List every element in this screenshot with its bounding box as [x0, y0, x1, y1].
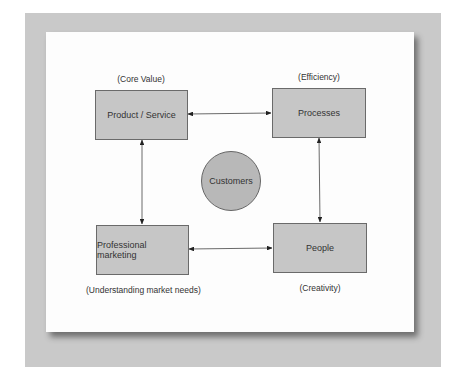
- node-label: People: [306, 243, 334, 253]
- node-product-service: Product / Service: [95, 90, 188, 140]
- caption-creativity: (Creativity): [273, 283, 367, 293]
- node-label: Customers: [209, 176, 253, 186]
- node-people: People: [273, 223, 367, 273]
- node-customers: Customers: [201, 151, 261, 211]
- caption-understanding-market-needs: (Understanding market needs): [86, 285, 199, 295]
- node-label: Professional marketing: [97, 240, 188, 260]
- node-processes: Processes: [272, 88, 366, 138]
- caption-core-value: (Core Value): [95, 74, 187, 84]
- caption-efficiency: (Efficiency): [272, 72, 366, 82]
- node-professional-marketing: Professional marketing: [96, 225, 189, 275]
- node-label: Product / Service: [107, 110, 176, 120]
- node-label: Processes: [298, 108, 340, 118]
